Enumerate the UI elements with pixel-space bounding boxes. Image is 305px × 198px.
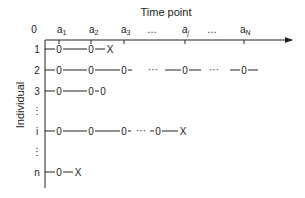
observation-mark: 0 (182, 65, 188, 76)
ellipsis-mark: ··· (209, 64, 219, 75)
observation-mark: 0 (56, 65, 62, 76)
ellipsis-mark: ··· (136, 125, 146, 136)
observation-mark: 0 (121, 65, 127, 76)
observation-mark: 0 (56, 86, 62, 97)
observation-mark: 0 (88, 126, 94, 137)
tick-label-ellipsis-1: … (147, 24, 157, 35)
observation-mark: 0 (88, 44, 94, 55)
observation-mark: 0 (56, 167, 62, 178)
ellipsis-mark: ··· (148, 64, 158, 75)
row-3-sequence: 0 0 0 (45, 86, 106, 97)
tick-label-a1: a1 (57, 24, 67, 36)
dropout-mark: X (107, 44, 114, 55)
observation-mark: 0 (241, 65, 247, 76)
y-axis-label: Individual (14, 82, 26, 128)
longitudinal-data-diagram: Time point Individual 0 a1 a2 a3 … aj … … (0, 0, 305, 198)
row-n-sequence: 0 X (45, 167, 82, 178)
dropout-mark: X (75, 167, 82, 178)
time-tick-labels: a1 a2 a3 … aj … aN (57, 24, 251, 37)
origin-label: 0 (31, 24, 37, 35)
row-label-1: 1 (34, 44, 40, 55)
row-label-vdots-1: ⋮ (32, 105, 42, 116)
row-label-n: n (34, 167, 40, 178)
time-tick-marks (59, 40, 244, 44)
tick-label-a2: a2 (89, 24, 99, 36)
dropout-mark: X (180, 126, 187, 137)
observation-mark: 0 (56, 126, 62, 137)
observation-mark: 0 (56, 44, 62, 55)
row-2-sequence: 0 0 0 ··· 0 ··· 0 (45, 64, 258, 76)
row-label-vdots-2: ⋮ (32, 146, 42, 157)
row-1-sequence: 0 0 X (45, 44, 114, 55)
row-labels: 1 2 3 ⋮ i ⋮ n (32, 44, 42, 178)
observation-mark: 0 (88, 86, 94, 97)
tick-label-a3: a3 (121, 24, 131, 36)
row-i-sequence: 0 0 0 ··· 0 X (45, 125, 187, 137)
tick-label-ellipsis-2: … (207, 24, 217, 35)
observation-mark: 0 (121, 126, 127, 137)
observation-mark: 0 (155, 126, 161, 137)
observation-mark: 0 (100, 86, 106, 97)
observation-mark: 0 (88, 65, 94, 76)
diagram-title: Time point (141, 6, 192, 18)
row-label-2: 2 (34, 65, 40, 76)
row-label-3: 3 (34, 86, 40, 97)
row-label-i: i (36, 126, 38, 137)
tick-label-aN: aN (240, 24, 251, 36)
tick-label-aj: aj (182, 24, 190, 37)
